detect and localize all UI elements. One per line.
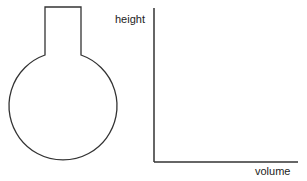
y-axis-label: height (115, 13, 145, 25)
flask-outline (9, 7, 117, 160)
diagram-canvas (0, 0, 307, 181)
x-axis-label: volume (255, 165, 290, 177)
